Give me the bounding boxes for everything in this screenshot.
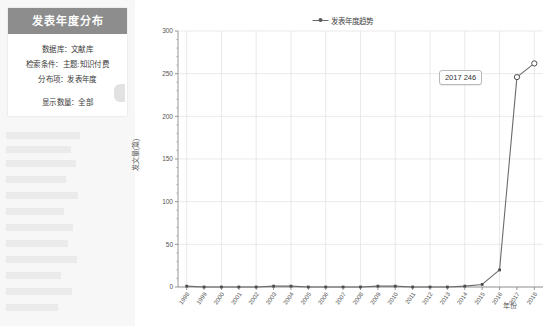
svg-text:50: 50: [166, 241, 174, 248]
panel-title: 发表年度分布: [8, 8, 127, 34]
background-text-line: [6, 224, 118, 231]
svg-text:2009: 2009: [369, 291, 382, 306]
y-axis-title: 发文量(篇): [130, 139, 140, 172]
background-text-line: [6, 240, 110, 247]
svg-text:2015: 2015: [473, 291, 486, 306]
svg-text:200: 200: [162, 113, 173, 120]
svg-text:2002: 2002: [247, 291, 260, 306]
svg-text:2007: 2007: [334, 291, 347, 306]
svg-text:100: 100: [162, 198, 173, 205]
svg-text:2013: 2013: [439, 291, 452, 306]
line-chart-svg: 0501001502002503001998199920002001200220…: [135, 0, 550, 326]
plot-area: 0501001502002503001998199920002001200220…: [135, 0, 550, 326]
background-text-line: [6, 256, 124, 263]
svg-text:2005: 2005: [300, 291, 313, 306]
x-axis-title: 年份: [503, 300, 517, 310]
info-row-dimension: 分布项：发表年度: [8, 73, 127, 84]
distribution-card: 发表年度分布 数据库：文献库 检索条件：主题:知识付费 分布项：发表年度 显示数…: [8, 8, 127, 116]
svg-text:250: 250: [162, 70, 173, 77]
left-info-panel: 发表年度分布 数据库：文献库 检索条件：主题:知识付费 分布项：发表年度 显示数…: [0, 0, 136, 326]
data-point-tooltip: 2017 246: [439, 70, 482, 85]
background-text-line: [6, 176, 106, 183]
svg-text:300: 300: [162, 27, 173, 34]
screenshot-root: 发表年度分布 数据库：文献库 检索条件：主题:知识付费 分布项：发表年度 显示数…: [0, 0, 550, 326]
svg-text:1998: 1998: [178, 291, 191, 306]
svg-text:2004: 2004: [282, 291, 295, 306]
info-row-database: 数据库：文献库: [8, 43, 127, 54]
svg-text:0: 0: [169, 283, 173, 290]
background-text-line: [6, 208, 102, 215]
background-text-line: [6, 160, 122, 167]
info-row-count: 显示数量：全部: [8, 96, 127, 107]
svg-text:2018: 2018: [526, 291, 539, 306]
background-text-line: [6, 304, 92, 311]
svg-text:2008: 2008: [352, 291, 365, 306]
svg-text:2000: 2000: [213, 291, 226, 306]
svg-text:150: 150: [162, 155, 173, 162]
svg-text:2011: 2011: [404, 291, 417, 306]
svg-text:1999: 1999: [195, 291, 208, 306]
svg-text:2012: 2012: [421, 291, 434, 306]
chart-panel: 发表年度趋势 050100150200250300199819992000200…: [135, 0, 550, 326]
background-text-line: [6, 192, 126, 199]
panel-collapse-handle[interactable]: [114, 84, 125, 102]
background-text-line: [6, 272, 98, 279]
info-row-condition: 检索条件：主题:知识付费: [8, 58, 127, 69]
svg-text:2006: 2006: [317, 291, 330, 306]
background-text-line: [6, 146, 114, 153]
background-text-line: [6, 132, 130, 139]
svg-text:2003: 2003: [265, 291, 278, 306]
svg-text:2010: 2010: [387, 291, 400, 306]
background-text-line: [6, 288, 116, 295]
svg-text:2001: 2001: [230, 291, 243, 306]
svg-text:2014: 2014: [456, 291, 469, 306]
svg-text:2016: 2016: [491, 291, 504, 306]
